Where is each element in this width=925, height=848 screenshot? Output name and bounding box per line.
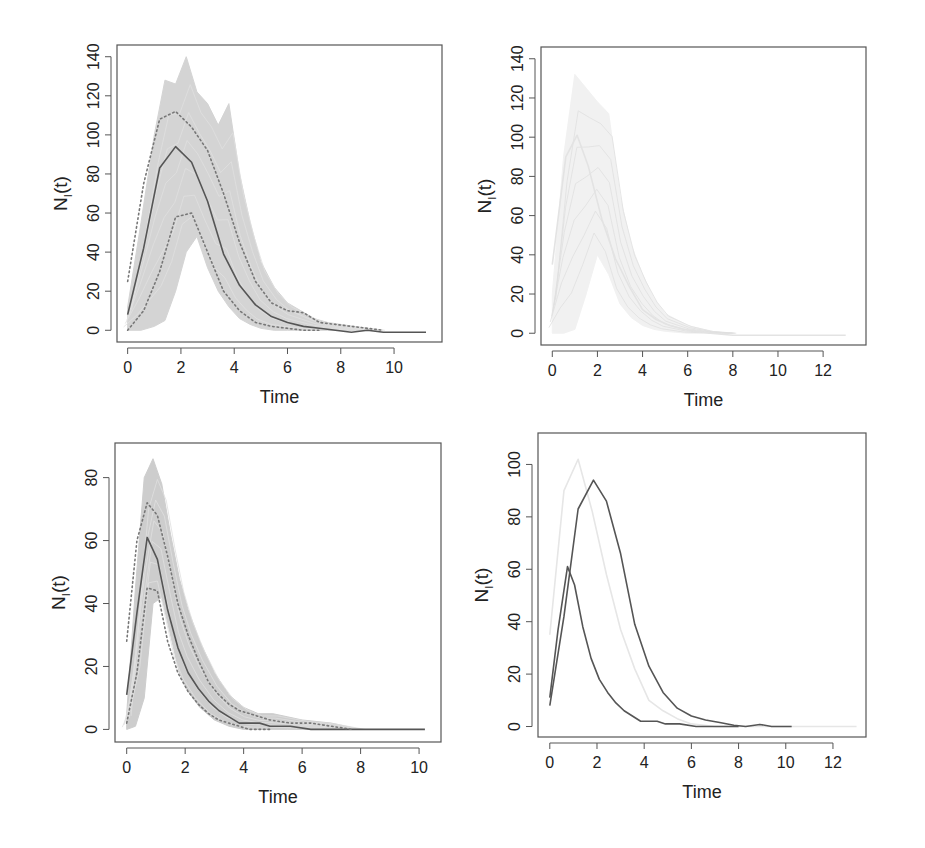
trajectory-envelope	[127, 459, 361, 730]
y-tick-label: 20	[85, 282, 102, 300]
x-tick-label: 6	[283, 359, 292, 376]
x-tick-label: 4	[640, 754, 649, 771]
chart-panel-top-right: 024681012Time020406080100120140NI(t)	[474, 45, 866, 410]
chart-panel-bottom-right: 024681012Time020406080100NI(t)	[471, 433, 866, 802]
y-tick-label: 60	[509, 207, 526, 225]
x-tick-label: 8	[734, 754, 743, 771]
x-tick-label: 10	[777, 754, 795, 771]
mean-line	[550, 459, 857, 726]
x-tick-label: 12	[814, 362, 832, 379]
x-tick-label: 8	[356, 759, 365, 776]
x-tick-label: 0	[123, 359, 132, 376]
y-tick-label: 120	[85, 82, 102, 109]
y-tick-label: 40	[509, 246, 526, 264]
y-tick-label: 100	[506, 451, 523, 478]
plot-area	[124, 57, 426, 333]
y-tick-label: 20	[506, 665, 523, 683]
y-axis: 020406080100120140NI(t)	[474, 45, 535, 337]
x-tick-label: 8	[336, 359, 345, 376]
x-tick-label: 12	[824, 754, 842, 771]
y-axis: 020406080100120140NI(t)	[50, 43, 111, 334]
x-tick-label: 0	[122, 759, 131, 776]
x-axis: 024681012Time	[548, 351, 832, 410]
x-tick-label: 2	[593, 754, 602, 771]
x-tick-label: 0	[548, 362, 557, 379]
y-tick-label: 100	[85, 121, 102, 148]
y-tick-label: 120	[509, 85, 526, 112]
figure-svg: 0246810Time020406080100120140NI(t)024681…	[0, 0, 925, 848]
x-tick-label: 6	[683, 362, 692, 379]
x-tick-label: 2	[181, 759, 190, 776]
y-tick-label: 140	[85, 43, 102, 70]
y-tick-label: 40	[83, 595, 100, 613]
y-tick-label: 60	[506, 560, 523, 578]
y-tick-label: 100	[509, 124, 526, 151]
x-tick-label: 4	[230, 359, 239, 376]
y-tick-label: 0	[506, 722, 523, 731]
x-tick-label: 4	[239, 759, 248, 776]
plot-frame	[538, 433, 866, 737]
y-axis: 020406080100NI(t)	[471, 451, 532, 731]
x-tick-label: 2	[176, 359, 185, 376]
y-tick-label: 80	[506, 508, 523, 526]
chart-panel-top-left: 0246810Time020406080100120140NI(t)	[50, 43, 442, 407]
x-tick-label: 8	[728, 362, 737, 379]
x-axis-label: Time	[258, 787, 297, 807]
y-tick-label: 80	[509, 167, 526, 185]
y-axis-label: NI(t)	[50, 176, 74, 211]
x-tick-label: 2	[593, 362, 602, 379]
y-tick-label: 0	[85, 326, 102, 335]
y-tick-label: 20	[83, 657, 100, 675]
y-axis-label: NI(t)	[471, 568, 495, 603]
x-tick-label: 10	[769, 362, 787, 379]
y-tick-label: 80	[85, 165, 102, 183]
x-tick-label: 6	[687, 754, 696, 771]
x-tick-label: 10	[410, 759, 428, 776]
x-axis-label: Time	[682, 782, 721, 802]
x-axis: 0246810Time	[122, 748, 428, 807]
plot-area	[122, 459, 425, 730]
mean-line	[550, 480, 792, 726]
x-tick-label: 4	[638, 362, 647, 379]
y-tick-label: 140	[509, 45, 526, 72]
x-axis: 0246810Time	[123, 348, 403, 407]
x-tick-label: 6	[298, 759, 307, 776]
y-tick-label: 0	[509, 329, 526, 338]
plot-area	[549, 74, 846, 335]
y-tick-label: 40	[506, 613, 523, 631]
mean-line	[550, 567, 739, 727]
figure-canvas: 0246810Time020406080100120140NI(t)024681…	[0, 0, 925, 848]
plot-area	[550, 459, 857, 726]
x-axis-label: Time	[684, 390, 723, 410]
x-tick-label: 0	[545, 754, 554, 771]
x-axis-label: Time	[260, 387, 299, 407]
y-tick-label: 60	[85, 204, 102, 222]
y-tick-label: 20	[509, 285, 526, 303]
y-tick-label: 40	[85, 243, 102, 261]
y-axis: 020406080NI(t)	[48, 469, 109, 734]
y-tick-label: 80	[83, 469, 100, 487]
x-axis: 024681012Time	[545, 743, 842, 802]
y-axis-label: NI(t)	[48, 575, 72, 610]
y-tick-label: 0	[83, 725, 100, 734]
x-tick-label: 10	[385, 359, 403, 376]
chart-panel-bottom-left: 0246810Time020406080NI(t)	[48, 443, 441, 807]
y-tick-label: 60	[83, 532, 100, 550]
y-axis-label: NI(t)	[474, 179, 498, 214]
